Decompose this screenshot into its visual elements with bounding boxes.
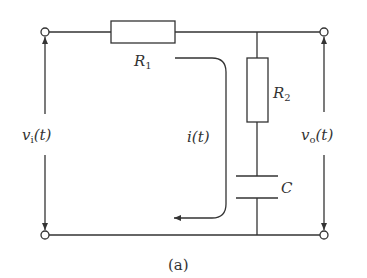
vo-label: vo(t) [301,126,333,145]
r1-label: R1 [133,52,152,71]
i-label: i(t) [187,128,210,146]
input-terminal-bottom [41,231,49,239]
r2-label: R2 [272,84,291,103]
resistor-r1 [111,21,175,43]
figure-caption: (a) [168,256,189,274]
c-label: C [281,179,293,197]
capacitor-c [236,176,278,198]
input-terminal-top [41,28,49,36]
output-terminal-bottom [320,231,328,239]
rc-circuit-diagram: R1 R2 C vi(t) vo(t) i(t) (a) [0,0,367,278]
resistor-r2 [247,58,268,122]
output-terminal-top [320,28,328,36]
vi-label: vi(t) [22,126,52,145]
